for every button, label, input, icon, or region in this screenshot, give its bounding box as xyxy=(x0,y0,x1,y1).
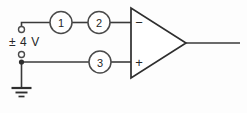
measurement-node-2[interactable]: 2 xyxy=(88,12,110,34)
circuit-diagram: ± 4 V − + 1 2 3 xyxy=(0,0,247,113)
wire-top-terminal-to-node1 xyxy=(22,23,51,27)
node-2-label: 2 xyxy=(96,17,102,29)
node-3-label: 3 xyxy=(97,57,103,69)
circuit-schematic-canvas: ± 4 V − + 1 2 3 xyxy=(0,0,247,113)
measurement-node-1[interactable]: 1 xyxy=(50,12,72,34)
inverting-input-sign: − xyxy=(135,15,143,30)
junction-dot xyxy=(19,59,24,64)
inverting-input-branch xyxy=(22,23,132,27)
ground-symbol xyxy=(12,62,32,97)
open-terminal-negative[interactable] xyxy=(19,52,25,58)
node-1-label: 1 xyxy=(58,17,64,29)
supply-voltage-label: ± 4 V xyxy=(9,35,40,49)
measurement-node-3[interactable]: 3 xyxy=(89,51,111,73)
open-terminal-positive[interactable] xyxy=(19,27,25,33)
noninverting-input-sign: + xyxy=(135,55,143,70)
